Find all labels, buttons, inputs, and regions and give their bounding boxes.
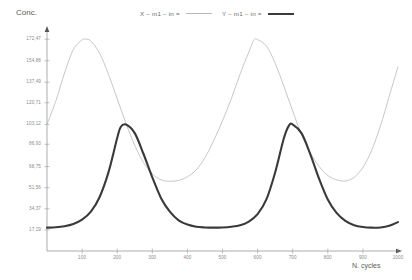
y-tick-label: 172,47	[15, 36, 41, 41]
x-tick-label: 1000	[388, 255, 408, 260]
chart-container: X – m1 – in = Y – m1 – in = Conc. N. cyc…	[0, 0, 412, 280]
y-tick-label: 68,75	[15, 164, 41, 169]
x-tick-label: 200	[107, 255, 127, 260]
y-tick-label: 103,12	[15, 121, 41, 126]
y-tick-label: 154,88	[15, 58, 41, 63]
x-tick-label: 900	[353, 255, 373, 260]
x-tick-label: 300	[142, 255, 162, 260]
x-tick-label: 500	[213, 255, 233, 260]
series-line-x	[47, 39, 398, 182]
y-tick-label: 86,93	[15, 141, 41, 146]
x-tick-label: 400	[177, 255, 197, 260]
y-tick-label: 17,19	[15, 227, 41, 232]
y-tick-label: 120,71	[15, 100, 41, 105]
axis-lines	[45, 26, 402, 253]
y-tick-label: 51,56	[15, 185, 41, 190]
y-tick-label: 34,37	[15, 206, 41, 211]
y-tick-label: 137,49	[15, 79, 41, 84]
x-tick-label: 600	[248, 255, 268, 260]
x-tick-label: 800	[318, 255, 338, 260]
plot-area	[0, 0, 412, 280]
series-line-y	[47, 124, 398, 228]
x-tick-label: 700	[283, 255, 303, 260]
x-tick-label: 100	[72, 255, 92, 260]
